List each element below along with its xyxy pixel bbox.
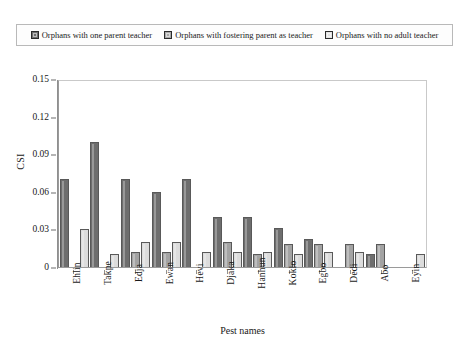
y-tick-mark-1 bbox=[51, 117, 56, 118]
bar-group bbox=[395, 81, 426, 267]
legend-item-2: Orphans with no adult teacher bbox=[325, 31, 438, 40]
bar-group bbox=[365, 81, 396, 267]
bar-group bbox=[212, 81, 243, 267]
x-tick-label-9: Dedi bbox=[350, 263, 360, 282]
x-tick-cell-4: Hevi bbox=[181, 270, 212, 322]
bar-koklo-series-0 bbox=[274, 228, 283, 267]
legend-label-1: Orphans with fostering parent as teacher bbox=[175, 31, 313, 40]
x-tick-cell-0: Ehlin bbox=[58, 270, 89, 322]
y-tick-mark-3 bbox=[51, 192, 56, 193]
x-tick-cell-10: Abo bbox=[366, 270, 397, 322]
bar-group bbox=[151, 81, 182, 267]
y-tick-label-5: 0 bbox=[44, 263, 49, 273]
bar-hevi-series-0 bbox=[182, 179, 191, 267]
x-tick-cell-8: Egbo bbox=[304, 270, 335, 322]
bar-group bbox=[120, 81, 151, 267]
x-tick-label-4: Hevi bbox=[196, 263, 206, 282]
bar-egbo-series-0 bbox=[304, 239, 313, 267]
y-tick-label-4: 0.03 bbox=[32, 226, 49, 236]
y-axis: 0.150.120.090.060.030 bbox=[0, 80, 58, 269]
bar-group bbox=[181, 81, 212, 267]
x-axis-title: Pest names bbox=[58, 325, 427, 336]
plot-area bbox=[58, 80, 427, 268]
y-tick-mark-2 bbox=[51, 155, 56, 156]
bar-group bbox=[59, 81, 90, 267]
legend-label-0: Orphans with one parent teacher bbox=[42, 31, 152, 40]
bar-group bbox=[304, 81, 335, 267]
x-tick-label-1: Takpe bbox=[104, 261, 114, 285]
bar-djaka-series-0 bbox=[213, 217, 222, 267]
x-tick-label-2: Edja bbox=[135, 264, 145, 282]
bar-edja-series-0 bbox=[121, 179, 130, 267]
x-tick-cell-6: Hanhun bbox=[243, 270, 274, 322]
x-tick-label-7: Koklo bbox=[289, 261, 299, 286]
x-tick-cell-2: Edja bbox=[120, 270, 151, 322]
bar-group bbox=[273, 81, 304, 267]
bar-ewan-series-0 bbox=[152, 192, 161, 267]
x-tick-label-8: Egbo bbox=[319, 263, 329, 284]
x-tick-label-11: Eyin bbox=[412, 264, 422, 283]
x-tick-label-6: Hanhun bbox=[258, 257, 268, 288]
y-axis-title: CSI bbox=[15, 132, 26, 192]
legend-label-2: Orphans with no adult teacher bbox=[336, 31, 438, 40]
x-tick-label-5: Djaka bbox=[227, 261, 237, 285]
x-tick-label-10: Abo bbox=[381, 265, 391, 282]
bar-ehlin-series-0 bbox=[60, 179, 69, 267]
bar-group bbox=[334, 81, 365, 267]
bar-takpe-series-0 bbox=[90, 142, 99, 267]
x-tick-cell-11: Eyin bbox=[396, 270, 427, 322]
legend-item-1: Orphans with fostering parent as teacher bbox=[164, 31, 313, 40]
y-tick-label-0: 0.15 bbox=[32, 75, 49, 85]
y-tick-label-3: 0.06 bbox=[32, 188, 49, 198]
series-1-swatch bbox=[164, 31, 172, 39]
x-axis-tick-labels: EhlinTakpeEdjaEwanHeviDjakaHanhunKokloEg… bbox=[58, 270, 427, 322]
bar-chart-figure: Orphans with one parent teacher Orphans … bbox=[0, 0, 469, 349]
x-tick-cell-9: Dedi bbox=[335, 270, 366, 322]
x-tick-label-0: Ehlin bbox=[73, 262, 83, 284]
bar-group bbox=[242, 81, 273, 267]
series-2-swatch bbox=[325, 31, 333, 39]
x-tick-cell-3: Ewan bbox=[150, 270, 181, 322]
y-tick-label-2: 0.09 bbox=[32, 150, 49, 160]
y-tick-mark-4 bbox=[51, 230, 56, 231]
y-tick-mark-0 bbox=[51, 80, 56, 81]
bar-groups bbox=[59, 81, 426, 267]
bar-hanhun-series-0 bbox=[243, 217, 252, 267]
y-tick-label-1: 0.12 bbox=[32, 113, 49, 123]
x-tick-cell-7: Koklo bbox=[273, 270, 304, 322]
chart-legend: Orphans with one parent teacher Orphans … bbox=[16, 24, 453, 46]
y-tick-mark-5 bbox=[51, 268, 56, 269]
bar-group bbox=[90, 81, 121, 267]
x-tick-cell-5: Djaka bbox=[212, 270, 243, 322]
bar-abo-series-0 bbox=[366, 254, 375, 267]
series-0-swatch bbox=[31, 31, 39, 39]
legend-item-0: Orphans with one parent teacher bbox=[31, 31, 152, 40]
x-tick-cell-1: Takpe bbox=[89, 270, 120, 322]
x-tick-label-3: Ewan bbox=[166, 262, 176, 284]
